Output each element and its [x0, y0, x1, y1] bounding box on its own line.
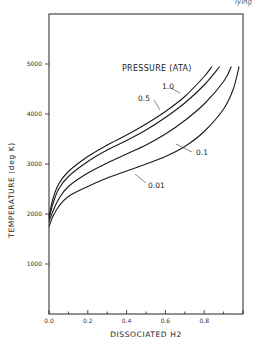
curve-label-0.01: 0.01: [148, 181, 165, 190]
pressure-curves: [49, 67, 239, 227]
curve-pressure-0.1: [49, 67, 231, 222]
y-tick-label: 1000: [27, 260, 42, 267]
legend-title: PRESSURE (ATA): [122, 64, 192, 73]
y-tick-label: 4000: [27, 110, 42, 117]
x-tick-label: 0.6: [161, 317, 171, 324]
x-tick-label: 0.4: [122, 317, 132, 324]
y-tick-label: 3000: [27, 160, 42, 167]
y-tick-label: 2000: [27, 210, 42, 217]
curve-label-0.5: 0.5: [138, 94, 150, 103]
curve-label-0.1: 0.1: [196, 148, 208, 157]
chart: lying 10002000300040005000 0.00.20.40.60…: [0, 0, 256, 356]
y-axis-label: TEMPERATURE (deg K): [7, 142, 16, 239]
leader-line: [154, 100, 160, 110]
x-tick-label: 0.8: [199, 317, 209, 324]
x-tick-label: 0.2: [83, 317, 93, 324]
curve-pressure-0.5: [49, 67, 220, 220]
curve-label-1.0: 1.0: [162, 82, 174, 91]
curve-labels: 1.00.50.10.01: [135, 82, 208, 190]
x-axis-ticks: 0.00.20.40.60.8: [44, 310, 243, 324]
y-axis-ticks: 10002000300040005000: [27, 60, 49, 267]
x-axis-label: DISSOCIATED H2: [110, 330, 182, 339]
leader-line: [135, 174, 146, 183]
y-tick-label: 5000: [27, 60, 42, 67]
x-tick-label: 0.0: [44, 317, 54, 324]
page-header-fragment: lying: [235, 0, 252, 6]
